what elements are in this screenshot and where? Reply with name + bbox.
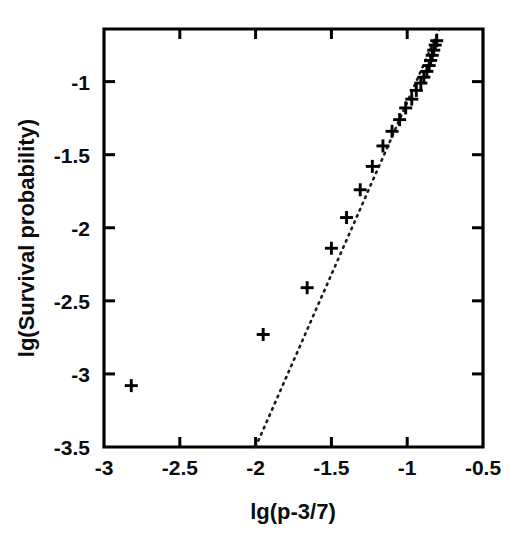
x-tick-label: -1 [398,456,417,479]
x-tick-label: -1.5 [313,456,350,479]
x-tick-label: -0.5 [465,456,502,479]
fit-line [256,30,439,447]
x-axis-tick-labels: -3-2.5-2-1.5-1-0.5 [95,456,502,479]
data-point [354,183,367,196]
y-tick-label: -2.5 [54,290,91,313]
x-tick-label: -2 [246,456,265,479]
y-tick-label: -1 [71,71,90,94]
data-point [325,242,338,255]
data-point [399,101,412,114]
data-point [376,139,389,152]
y-axis-ticks-right [472,82,483,374]
scatter-plot: -3-2.5-2-1.5-1-0.5 -1-1.5-2-2.5-3-3.5 lg… [0,0,528,548]
x-tick-label: -2.5 [162,456,199,479]
data-point-markers [125,34,443,392]
data-point [301,281,314,294]
y-tick-label: -2 [71,217,90,240]
y-tick-label: -3.5 [54,436,91,459]
data-point [386,125,399,138]
y-axis-tick-labels: -1-1.5-2-2.5-3-3.5 [54,71,91,459]
data-point [257,328,270,341]
x-tick-label: -3 [95,456,114,479]
x-axis-title: lg(p-3/7) [250,499,336,524]
y-axis-title: lg(Survival probability) [14,119,39,357]
y-tick-label: -1.5 [54,144,91,167]
data-point [340,211,353,224]
data-point [393,113,406,126]
figure-container: -3-2.5-2-1.5-1-0.5 -1-1.5-2-2.5-3-3.5 lg… [0,0,528,548]
y-tick-label: -3 [71,363,90,386]
data-point [125,379,138,392]
y-axis-ticks [104,82,115,374]
axis-frame [104,29,483,447]
